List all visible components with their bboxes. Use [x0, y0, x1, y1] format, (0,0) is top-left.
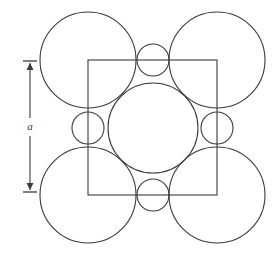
dimension-annotation-a: a [23, 61, 37, 192]
lattice-parameter-label: a [27, 120, 33, 132]
center-circle [108, 83, 198, 173]
figure-container: a [0, 0, 277, 254]
arrowhead-down-icon [27, 183, 34, 190]
unit-cell-diagram: a [0, 0, 277, 254]
arrowhead-up-icon [27, 63, 34, 70]
